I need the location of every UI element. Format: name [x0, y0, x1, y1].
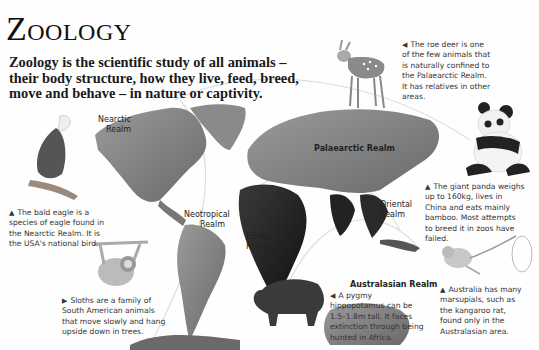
caption-text: A pygmy hippopotamus can be 1.5–1.8m tal… — [330, 291, 424, 342]
caption-kangaroo-rat: ▲Australia has many marsupials, such as … — [440, 285, 530, 337]
realm-label-line: Australasian Realm — [350, 280, 437, 290]
caption-pygmy-hippopotamus: ◀A pygmy hippopotamus can be 1.5–1.8m ta… — [330, 291, 425, 343]
south-america — [177, 224, 225, 340]
pointer-up-icon: ▲ — [440, 286, 445, 294]
realm-label-oriental: Oriental Realm — [380, 200, 412, 220]
realm-label-neotropical: Neotropical Realm — [184, 210, 230, 230]
realm-label-ethiopian: Ethiop Realm — [246, 232, 271, 252]
realm-label-palaearctic: Palaearctic Realm — [314, 144, 395, 154]
caption-text: Sloths are a family of South American an… — [62, 296, 165, 336]
bald-eagle-illustration — [22, 108, 80, 200]
caption-text: The giant panda weighs up to 160kg, live… — [425, 182, 524, 243]
caption-roe-deer: ◀The roe deer is one of the few animals … — [402, 40, 492, 102]
realm-label-line: Nearctic — [98, 115, 131, 125]
caption-bald-eagle: ▲The bald eagle is a species of eagle fo… — [9, 208, 104, 250]
realm-label-line: Neotropical — [184, 210, 230, 220]
pointer-left-icon: ◀ — [402, 41, 407, 49]
pointer-right-icon: ▶ — [62, 297, 67, 305]
realm-label-line: Realm — [98, 125, 131, 135]
caption-sloth: ▶Sloths are a family of South American a… — [62, 296, 172, 338]
pygmy-hippopotamus-illustration — [248, 270, 328, 328]
realm-label-line: Realm — [246, 242, 271, 252]
pointer-left-icon: ◀ — [330, 292, 335, 300]
caption-text: The bald eagle is a species of eagle fou… — [9, 208, 104, 248]
giant-panda-illustration — [448, 98, 534, 178]
realm-label-line: Realm — [380, 210, 412, 220]
page-title: Zoology — [6, 12, 132, 46]
pointer-up-icon: ▲ — [9, 209, 14, 217]
realm-label-line: Ethiop — [246, 232, 271, 242]
realm-label-line: Palaearctic Realm — [314, 144, 395, 154]
realm-label-line: Realm — [184, 220, 230, 230]
realm-label-nearctic: Nearctic Realm — [98, 115, 131, 135]
india — [330, 194, 355, 236]
caption-text: The roe deer is one of the few animals t… — [402, 40, 490, 101]
intro-paragraph: Zoology is the scientific study of all a… — [9, 55, 309, 102]
pointer-up-icon: ▲ — [425, 183, 430, 191]
roe-deer-illustration — [330, 38, 390, 113]
realm-label-line: Oriental — [380, 200, 412, 210]
caption-text: Australia has many marsupials, such as t… — [440, 285, 522, 336]
realm-label-australasian: Australasian Realm — [350, 280, 437, 290]
page-title-text: Zoology — [6, 10, 132, 47]
book-page: Zoology Zoology is the scientific study … — [0, 0, 539, 350]
caption-giant-panda: ▲The giant panda weighs up to 160kg, liv… — [425, 182, 525, 244]
